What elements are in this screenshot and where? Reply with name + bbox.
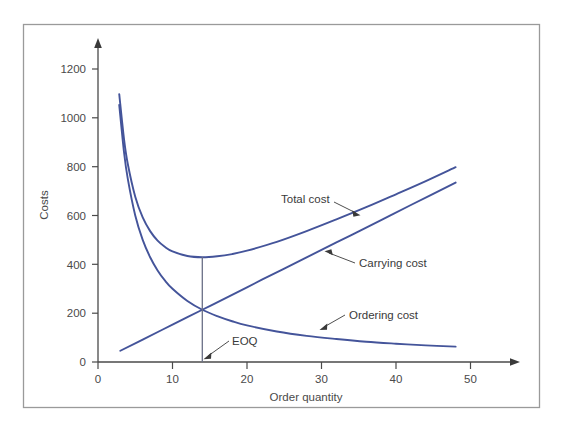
x-tick-label-20: 20: [241, 373, 254, 385]
y-tick-label-200: 200: [67, 307, 86, 319]
y-tick-label-0: 0: [80, 356, 86, 368]
y-tick-label-600: 600: [67, 210, 86, 222]
eoq-cost-chart: 0 200 400 600 800 1000 1200 0 10 20 30 4…: [0, 0, 562, 430]
chart-canvas: 0 200 400 600 800 1000 1200 0 10 20 30 4…: [0, 0, 562, 430]
x-tick-label-0: 0: [95, 373, 101, 385]
carrying-cost-label: Carrying cost: [359, 257, 428, 269]
eoq-label: EOQ: [232, 335, 258, 347]
y-tick-label-1200: 1200: [60, 63, 86, 75]
x-tick-label-30: 30: [315, 373, 328, 385]
x-tick-label-10: 10: [166, 373, 179, 385]
y-tick-label-400: 400: [67, 259, 86, 271]
x-tick-label-50: 50: [464, 373, 477, 385]
ordering-cost-label: Ordering cost: [349, 309, 419, 321]
y-tick-label-1000: 1000: [60, 112, 86, 124]
x-tick-label-40: 40: [390, 373, 403, 385]
x-axis-title: Order quantity: [270, 391, 343, 403]
y-tick-label-800: 800: [67, 161, 86, 173]
y-axis-title: Costs: [38, 190, 50, 220]
figure-frame: [24, 25, 540, 408]
total-cost-label: Total cost: [281, 193, 330, 205]
